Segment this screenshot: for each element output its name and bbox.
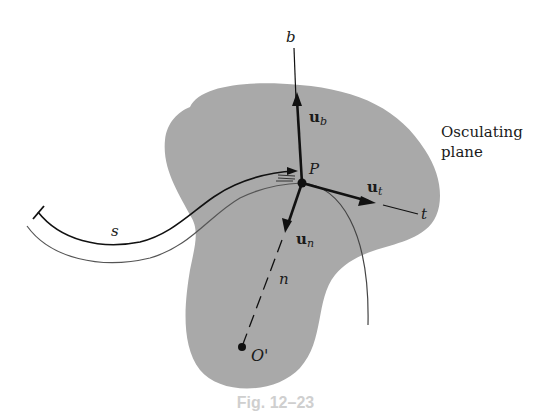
figure-caption: Fig. 12–23 [0, 394, 551, 412]
center-of-curvature-dot [238, 343, 246, 351]
label-o-prime: O' [251, 346, 269, 365]
label-s: s [111, 222, 119, 240]
point-p-dot [298, 179, 307, 188]
label-n: n [279, 270, 289, 288]
label-b: b [286, 28, 296, 46]
label-plane: plane [441, 143, 483, 161]
label-t: t [421, 205, 428, 223]
label-osculating: Osculating [441, 123, 523, 141]
label-p: P [308, 160, 320, 178]
